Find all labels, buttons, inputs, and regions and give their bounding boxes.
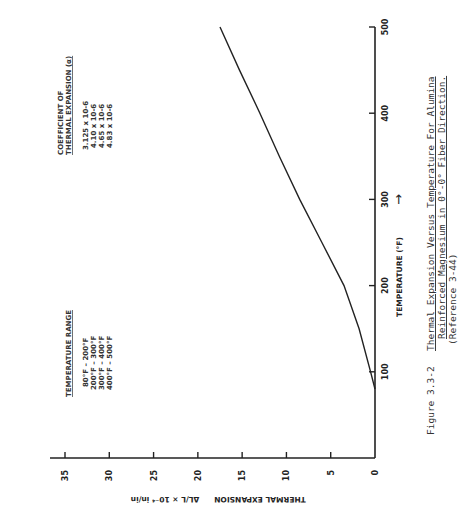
x-tick-label: 500 bbox=[381, 18, 390, 35]
table-row-range: 400°F – 500°F bbox=[106, 336, 114, 390]
y-tick-label: 35 bbox=[61, 470, 70, 482]
table-row-range: 300°F – 400°F bbox=[98, 336, 106, 390]
table-row-coefficient: 3.125 x 10-6 bbox=[82, 101, 90, 150]
caption-line-2: Reinforced Magnesium in 0°-0° Fiber Dire… bbox=[436, 76, 447, 339]
x-tick-label: 300 bbox=[381, 191, 390, 208]
table-header-thermal-expansion: THERMAL EXPANSION (α) bbox=[65, 56, 73, 155]
y-tick-label: 30 bbox=[105, 470, 114, 482]
rotated-figure-page: 100200300400500 05101520253035 TEMPERATU… bbox=[0, 0, 471, 517]
y-axis-title: THERMAL EXPANSION ΔL/L × 10⁻⁴ in/in bbox=[131, 495, 306, 504]
y-tick-label: 10 bbox=[282, 470, 291, 482]
table-row-coefficient: 4.65 x 10-6 bbox=[98, 104, 106, 148]
y-tick-label: 5 bbox=[327, 470, 336, 476]
y-tick-label: 20 bbox=[194, 470, 203, 482]
x-tick-label: 400 bbox=[381, 104, 390, 121]
axes: 100200300400500 05101520253035 bbox=[50, 18, 390, 481]
table-row-coefficient: 4.10 x 10-6 bbox=[90, 104, 98, 148]
coefficient-table: TEMPERATURE RANGE 80°F – 200°F 200°F – 3… bbox=[57, 56, 114, 397]
caption-line-1: Thermal Expansion Versus Temperature For… bbox=[425, 76, 436, 351]
caption-line-3: (Reference 3-44) bbox=[447, 253, 458, 345]
y-ticks: 05101520253035 bbox=[61, 452, 380, 481]
table-row-coefficient: 4.83 x 10-6 bbox=[106, 104, 114, 148]
thermal-expansion-curve bbox=[220, 27, 375, 389]
table-row-range: 80°F – 200°F bbox=[82, 337, 90, 387]
table-header-temperature-range: TEMPERATURE RANGE bbox=[65, 310, 73, 397]
y-tick-label: 25 bbox=[150, 470, 159, 482]
svg-text:THERMAL EXPANSION: THERMAL EXPANSION bbox=[214, 495, 306, 504]
svg-text:ΔL/L × 10⁻⁴ in/in: ΔL/L × 10⁻⁴ in/in bbox=[131, 495, 199, 504]
figure-number: Figure 3.3-2 bbox=[425, 366, 436, 435]
chart: 100200300400500 05101520253035 TEMPERATU… bbox=[0, 0, 471, 517]
x-axis-title: TEMPERATURE (°F) bbox=[395, 237, 404, 317]
y-tick-label: 0 bbox=[371, 470, 380, 476]
x-tick-label: 100 bbox=[381, 363, 390, 380]
x-axis-arrow: → bbox=[391, 194, 406, 205]
x-ticks: 100200300400500 bbox=[369, 18, 390, 380]
figure-caption: Figure 3.3-2 Thermal Expansion Versus Te… bbox=[425, 76, 458, 435]
table-header-coefficient: COEFFICIENT OF bbox=[57, 90, 65, 155]
y-tick-label: 15 bbox=[238, 470, 247, 482]
x-tick-label: 200 bbox=[381, 277, 390, 294]
table-row-range: 200°F – 300°F bbox=[90, 336, 98, 390]
